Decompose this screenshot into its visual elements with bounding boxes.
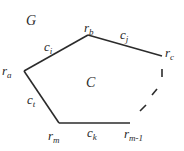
- edge-label-ck: ck: [87, 124, 97, 142]
- vertex-label-rm1: rm-1: [124, 125, 143, 143]
- dashed-path-rc-rm1: [140, 69, 162, 111]
- vertex-label-rc: rc: [165, 44, 174, 62]
- vertex-label-ra: ra: [2, 62, 12, 80]
- edge-label-ci: ci: [44, 38, 52, 56]
- graph-label: G: [26, 12, 36, 28]
- edge-ci: [24, 35, 88, 71]
- vertex-label-rm: rm: [48, 127, 60, 145]
- cycle-label: C: [86, 74, 95, 90]
- edge-label-ct: ct: [27, 91, 35, 109]
- vertex-label-rb: rb: [84, 19, 94, 37]
- edge-label-cj: cj: [120, 26, 128, 44]
- cycle-diagram: G C ra rb rc rm-1 rm ci cj ct ck: [0, 0, 184, 151]
